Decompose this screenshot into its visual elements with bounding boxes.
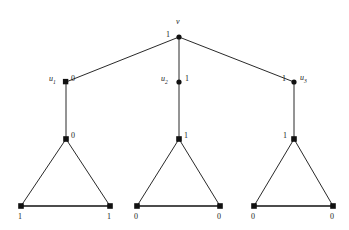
node-apex3 <box>291 136 297 142</box>
edge-apex2-leaf4 <box>179 139 220 206</box>
node-leaf3-value-label: 0 <box>134 213 138 221</box>
node-leaf2-value-label: 1 <box>107 213 111 221</box>
node-leaf1-value-label: 1 <box>18 213 22 221</box>
node-u1-name-label: u1 <box>49 75 56 85</box>
node-leaf5 <box>251 203 257 209</box>
node-v-name-label: v <box>176 18 180 26</box>
edge-apex1-leaf2 <box>66 139 110 206</box>
edge-apex3-leaf6 <box>294 139 333 206</box>
graph-canvas <box>0 0 349 230</box>
node-u3-value-label: 1 <box>282 75 286 83</box>
node-leaf4 <box>217 203 223 209</box>
node-leaf2 <box>107 203 113 209</box>
figure-container: v 1 u1 0 u2 1 1 u3 0 1 1 1 1 0 0 0 0 <box>0 0 349 230</box>
node-leaf1 <box>18 203 24 209</box>
node-leaf5-value-label: 0 <box>251 213 255 221</box>
node-apex2 <box>176 136 182 142</box>
node-v <box>176 34 181 39</box>
edge-apex3-leaf5 <box>254 139 294 206</box>
node-u2-value-label: 1 <box>185 75 189 83</box>
node-leaf6 <box>330 203 336 209</box>
node-apex1-value-label: 0 <box>71 132 75 140</box>
node-u2 <box>176 79 181 84</box>
node-u3 <box>291 79 296 84</box>
node-u3-name-label: u3 <box>300 74 307 84</box>
node-u2-name-label: u2 <box>161 75 168 85</box>
edge-apex2-leaf3 <box>137 139 179 206</box>
node-leaf6-value-label: 0 <box>330 213 334 221</box>
node-leaf4-value-label: 0 <box>217 213 221 221</box>
node-leaf3 <box>134 203 140 209</box>
node-u1 <box>63 79 68 84</box>
node-apex3-value-label: 1 <box>283 132 287 140</box>
node-v-value-label: 1 <box>166 31 170 39</box>
node-apex1 <box>63 136 69 142</box>
edge-apex1-leaf1 <box>21 139 66 206</box>
node-u1-value-label: 0 <box>71 75 75 83</box>
node-apex2-value-label: 1 <box>184 132 188 140</box>
edge-v-u3 <box>179 37 294 82</box>
